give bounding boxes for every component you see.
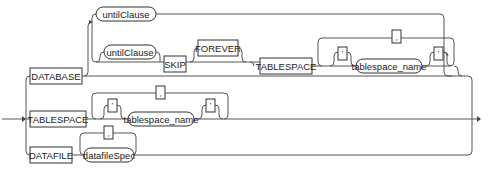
database-comma-label: , xyxy=(395,33,397,42)
database-branch: DATABASE untilClause untilClause SKIP FO… xyxy=(30,7,468,84)
until-clause-label: untilClause xyxy=(103,9,150,20)
until-clause-optional-label: untilClause xyxy=(107,47,154,58)
database-tablespace-keyword-label: TABLESPACE xyxy=(256,61,317,72)
datafile-keyword-label: DATAFILE xyxy=(29,150,73,161)
datafile-spec-label: datafileSpec xyxy=(83,150,136,161)
tablespace-branch: TABLESPACE , ' tablespace_name ' xyxy=(28,86,472,127)
skip-keyword-label: SKIP xyxy=(164,59,186,70)
entry-arrow xyxy=(2,116,26,122)
database-tablespace-name-label: tablespace_name xyxy=(352,61,427,72)
database-keyword-label: DATABASE xyxy=(31,71,80,82)
syntax-diagram: DATABASE untilClause untilClause SKIP FO… xyxy=(0,0,499,173)
tablespace-keyword-label: TABLESPACE xyxy=(28,114,89,125)
datafile-comma-label: , xyxy=(107,129,109,138)
tablespace-name-label: tablespace_name xyxy=(124,114,199,125)
tablespace-comma-label: , xyxy=(159,89,161,98)
exit-arrow xyxy=(472,116,481,122)
right-spine xyxy=(468,76,472,155)
datafile-branch: DATAFILE , datafileSpec xyxy=(29,126,468,163)
forever-keyword-label: FOREVER xyxy=(195,43,241,54)
